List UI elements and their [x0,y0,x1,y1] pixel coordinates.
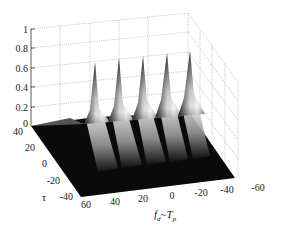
x-tick-60: 60 [81,199,91,210]
z-tick-0.8: 0.8 [16,43,29,54]
x-tick-neg20: -20 [194,187,207,198]
y-axis-label: τ [42,191,47,203]
y-tick-neg40: -40 [60,191,73,202]
x-label-T-sub: p [172,215,177,223]
z-tick-0: 0 [23,118,28,129]
x-tick-neg40: -40 [220,184,233,195]
y-tick-0: 0 [42,158,47,169]
y-tick-40: 40 [13,126,23,137]
x-tick-0: 0 [170,190,175,201]
x-tick-40: 40 [110,196,120,207]
z-axis: 1 0.8 0.6 0.4 0.2 0 [16,24,36,129]
y-tick-neg20: -20 [47,175,60,186]
x-axis-label: fd~Tp [154,208,177,223]
z-tick-0.6: 0.6 [16,63,29,74]
z-tick-0.4: 0.4 [16,82,29,93]
z-tick-1: 1 [23,24,28,35]
y-tick-20: 20 [25,142,35,153]
z-tick-0.2: 0.2 [16,102,29,113]
x-tick-neg60: -60 [251,182,264,193]
surface-plot: 1 0.8 0.6 0.4 0.2 0 40 20 [0,0,282,232]
x-tick-20: 20 [138,193,148,204]
